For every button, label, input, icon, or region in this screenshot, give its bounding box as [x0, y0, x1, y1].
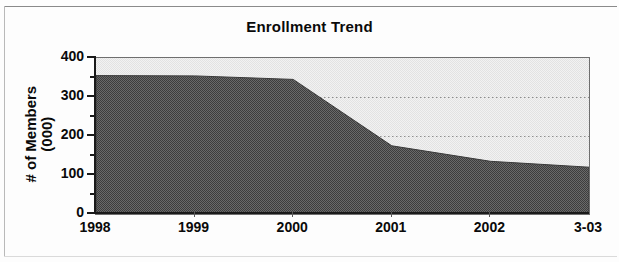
- y-tick-mark: [87, 134, 95, 136]
- page-top-rule: [4, 6, 617, 7]
- x-tick-label: 2002: [444, 219, 534, 235]
- x-tick-label: 2000: [247, 219, 337, 235]
- y-tick-mark: [87, 95, 95, 97]
- y-tick-mark: [87, 173, 95, 175]
- x-tick-mark: [292, 212, 293, 217]
- area-chart-svg: [96, 58, 589, 214]
- scanned-page-frame: Enrollment Trend: [0, 0, 619, 262]
- y-axis-title-line1: # of Members: [22, 86, 39, 183]
- page-bottom-rule: [4, 256, 617, 257]
- y-tick-mark-minor: [90, 115, 95, 117]
- y-tick-mark-minor: [90, 193, 95, 195]
- x-tick-mark: [194, 212, 195, 217]
- y-tick-mark: [87, 56, 95, 58]
- x-tick-label: 2001: [346, 219, 436, 235]
- x-tick-label: 3-03: [543, 219, 619, 235]
- y-tick-mark-minor: [90, 154, 95, 156]
- x-tick-mark: [489, 212, 490, 217]
- y-axis-title-line2: (000): [39, 49, 55, 219]
- x-tick-label: 1998: [50, 219, 140, 235]
- x-tick-label: 1999: [149, 219, 239, 235]
- plot-area: [95, 57, 590, 215]
- y-axis-title: # of Members (000): [23, 49, 55, 219]
- y-tick-mark-minor: [90, 76, 95, 78]
- page-left-rule: [4, 6, 5, 256]
- x-tick-mark: [391, 212, 392, 217]
- y-tick-mark: [87, 212, 95, 214]
- x-axis-line: [94, 212, 589, 214]
- chart-title: Enrollment Trend: [0, 18, 619, 35]
